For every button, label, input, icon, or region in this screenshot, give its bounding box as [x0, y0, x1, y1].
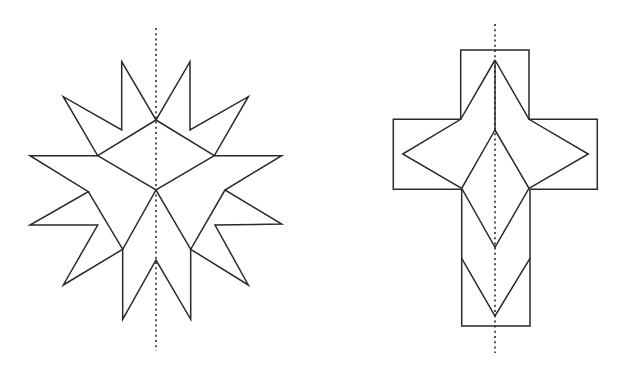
- cross-star-right-half: [495, 60, 588, 188]
- cross-figure: [393, 24, 597, 353]
- star-figure: [30, 28, 282, 351]
- star-lower-rhombi: [88, 190, 225, 249]
- symmetry-diagram: [0, 0, 625, 373]
- cross-inner-rhombus: [462, 130, 529, 247]
- cross-lower-chevron: [462, 258, 530, 316]
- cross-star-left-half: [403, 60, 495, 188]
